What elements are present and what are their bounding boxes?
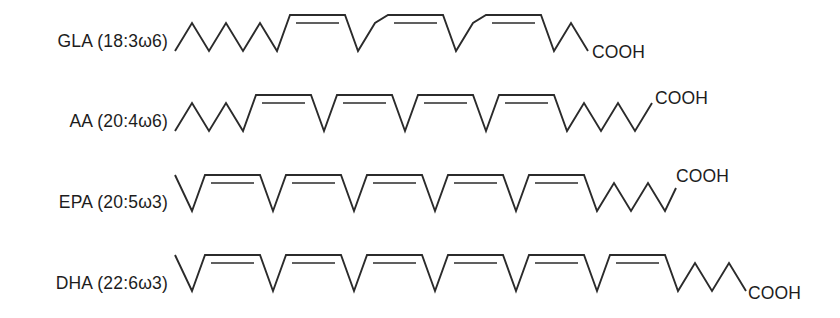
fatty-acid-row-dha: DHA (22:6ω3) COOH (0, 240, 840, 318)
chain-structure-gla (0, 0, 840, 80)
chain-backbone-gla (175, 15, 588, 51)
chain-backbone-aa (175, 95, 652, 131)
chain-backbone-dha (175, 255, 746, 291)
carboxyl-label-dha: COOH (748, 285, 801, 303)
chain-structure-dha (0, 240, 840, 318)
fatty-acid-structures-figure: GLA (18:3ω6) COOH AA (20:4ω6) COOH EPA (0, 0, 840, 318)
fatty-acid-row-gla: GLA (18:3ω6) COOH (0, 0, 840, 80)
fatty-acid-row-aa: AA (20:4ω6) COOH (0, 80, 840, 160)
carboxyl-label-aa: COOH (655, 90, 708, 108)
fatty-acid-row-epa: EPA (20:5ω3) COOH (0, 160, 840, 240)
chain-structure-aa (0, 80, 840, 160)
chain-backbone-epa (175, 175, 676, 211)
carboxyl-label-epa: COOH (676, 168, 729, 186)
carboxyl-label-gla: COOH (592, 44, 645, 62)
